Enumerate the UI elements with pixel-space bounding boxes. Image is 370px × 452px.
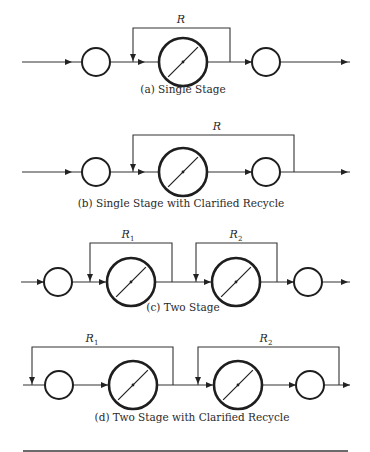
flow-arrow-icon bbox=[37, 279, 44, 285]
flow-diagram-figure: R(a) Single StageR(b) Single Stage with … bbox=[0, 0, 370, 452]
flow-arrow-icon bbox=[138, 59, 145, 65]
recycle-arrow-icon bbox=[193, 274, 199, 281]
flow-arrow-icon bbox=[245, 59, 252, 65]
diagram-caption: (a) Single Stage bbox=[140, 83, 225, 95]
clarifier-icon bbox=[82, 158, 110, 186]
diagram-caption: (d) Two Stage with Clarified Recycle bbox=[95, 411, 290, 423]
recycle-subscript: 1 bbox=[130, 235, 134, 243]
reactor-icon bbox=[159, 38, 207, 86]
recycle-label: R2 bbox=[229, 228, 243, 243]
recycle-arrow-icon bbox=[29, 377, 35, 384]
clarifier-icon bbox=[44, 268, 72, 296]
clarifier-icon bbox=[296, 371, 324, 399]
flow-arrow-icon bbox=[99, 279, 106, 285]
reactor-icon bbox=[212, 258, 260, 306]
diagram-caption: (b) Single Stage with Clarified Recycle bbox=[78, 197, 285, 209]
flow-arrow-icon bbox=[341, 279, 348, 285]
recycle-label: R2 bbox=[259, 332, 273, 347]
flow-arrow-icon bbox=[206, 382, 213, 388]
recycle-subscript: 2 bbox=[268, 339, 272, 347]
flow-arrow-icon bbox=[341, 169, 348, 175]
flow-arrow-icon bbox=[65, 59, 72, 65]
clarifier-icon bbox=[294, 268, 322, 296]
clarifier-icon bbox=[252, 48, 280, 76]
flow-arrow-icon bbox=[138, 169, 145, 175]
flow-arrow-icon bbox=[101, 382, 108, 388]
clarifier-icon bbox=[45, 371, 73, 399]
reactor-icon bbox=[214, 361, 262, 409]
flow-arrow-icon bbox=[65, 169, 72, 175]
recycle-label: R bbox=[176, 13, 185, 26]
diagram-canvas: R(a) Single StageR(b) Single Stage with … bbox=[0, 0, 370, 452]
recycle-label: R1 bbox=[121, 228, 135, 243]
recycle-label: R1 bbox=[85, 332, 99, 347]
flow-arrow-icon bbox=[204, 279, 211, 285]
recycle-arrow-icon bbox=[130, 54, 136, 61]
recycle-label: R bbox=[212, 120, 221, 133]
flow-arrow-icon bbox=[289, 382, 296, 388]
recycle-arrow-icon bbox=[130, 164, 136, 171]
reactor-icon bbox=[107, 258, 155, 306]
diagram-caption: (c) Two Stage bbox=[146, 301, 219, 313]
recycle-arrow-icon bbox=[195, 377, 201, 384]
flow-arrow-icon bbox=[287, 279, 294, 285]
reactor-icon bbox=[159, 148, 207, 196]
diagram-b: R(b) Single Stage with Clarified Recycle bbox=[22, 120, 350, 209]
reactor-icon bbox=[109, 361, 157, 409]
diagram-c: R1R2(c) Two Stage bbox=[21, 228, 350, 313]
flow-arrow-icon bbox=[341, 59, 348, 65]
diagram-a: R(a) Single Stage bbox=[22, 13, 350, 95]
clarifier-icon bbox=[82, 48, 110, 76]
flow-arrow-icon bbox=[245, 169, 252, 175]
flow-arrow-icon bbox=[343, 382, 350, 388]
diagram-d: R1R2(d) Two Stage with Clarified Recycle bbox=[23, 332, 350, 423]
recycle-subscript: 1 bbox=[94, 339, 98, 347]
clarifier-icon bbox=[252, 158, 280, 186]
recycle-arrow-icon bbox=[87, 274, 93, 281]
recycle-subscript: 2 bbox=[238, 235, 242, 243]
